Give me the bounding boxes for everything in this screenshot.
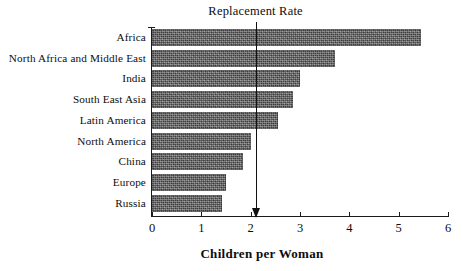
x-tick-label: 4 — [334, 221, 364, 236]
category-label: North Africa and Middle East — [0, 52, 146, 64]
bar-fill — [152, 153, 243, 170]
plot-area — [152, 29, 448, 215]
bar-europe — [152, 174, 226, 191]
bar-latin-america — [152, 112, 278, 129]
category-axis-labels: AfricaNorth Africa and Middle EastIndiaS… — [0, 29, 146, 215]
bar-india — [152, 70, 300, 87]
category-label: Latin America — [0, 114, 146, 126]
x-tick — [448, 212, 449, 217]
annotation-label: Replacement Rate — [166, 4, 346, 19]
bar-fill — [152, 91, 293, 108]
category-label: Africa — [0, 31, 146, 43]
y-axis-top-cap — [148, 27, 155, 28]
x-axis-title: Children per Woman — [0, 246, 462, 262]
x-tick — [399, 212, 400, 217]
bar-africa — [152, 29, 421, 46]
x-tick — [201, 212, 202, 217]
category-label: India — [0, 72, 146, 84]
x-tick-label: 2 — [236, 221, 266, 236]
category-label: China — [0, 155, 146, 167]
x-tick-label: 3 — [285, 221, 315, 236]
annotation-arrow-head-icon — [252, 208, 260, 218]
x-tick-label: 1 — [186, 221, 216, 236]
bar-north-africa-and-middle-east — [152, 50, 335, 67]
bar-fill — [152, 195, 222, 212]
bar-fill — [152, 50, 335, 67]
bar-fill — [152, 29, 421, 46]
category-label: Europe — [0, 176, 146, 188]
bar-china — [152, 153, 243, 170]
bar-fill — [152, 133, 251, 150]
x-tick-label: 6 — [433, 221, 462, 236]
bar-fill — [152, 112, 278, 129]
x-tick-label: 0 — [137, 221, 167, 236]
category-label: North America — [0, 135, 146, 147]
x-tick — [152, 212, 153, 217]
category-label: South East Asia — [0, 93, 146, 105]
bar-south-east-asia — [152, 91, 293, 108]
x-tick — [300, 212, 301, 217]
bar-fill — [152, 174, 226, 191]
y-axis-line — [151, 27, 152, 217]
x-tick — [349, 212, 350, 217]
category-label: Russia — [0, 197, 146, 209]
bar-north-america — [152, 133, 251, 150]
annotation-vertical-line — [256, 22, 257, 212]
bar-fill — [152, 70, 300, 87]
fertility-rate-bar-chart: AfricaNorth Africa and Middle EastIndiaS… — [0, 0, 462, 271]
bar-russia — [152, 195, 222, 212]
x-tick-label: 5 — [384, 221, 414, 236]
